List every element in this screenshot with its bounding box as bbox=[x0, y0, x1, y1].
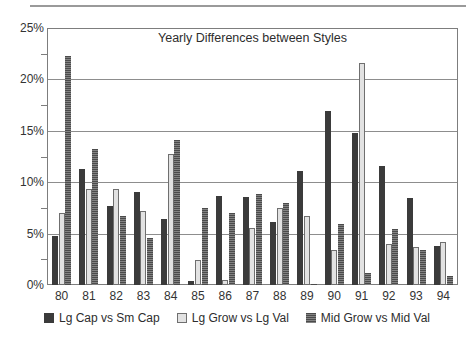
bar bbox=[168, 154, 174, 285]
chart-legend: Lg Cap vs Sm CapLg Grow vs Lg ValMid Gro… bbox=[0, 311, 474, 325]
page-rule-divider bbox=[30, 5, 466, 7]
x-tick-label: 86 bbox=[210, 289, 240, 303]
legend-label: Lg Cap vs Sm Cap bbox=[59, 311, 160, 325]
legend-item[interactable]: Lg Grow vs Lg Val bbox=[177, 311, 289, 325]
legend-item[interactable]: Lg Cap vs Sm Cap bbox=[44, 311, 160, 325]
y-tick-label: 0% bbox=[2, 279, 44, 291]
y-minor-tick bbox=[41, 54, 47, 55]
bar bbox=[407, 198, 413, 285]
bar-group bbox=[352, 29, 371, 285]
y-tick-label: 20% bbox=[2, 73, 44, 85]
bar-group bbox=[297, 29, 316, 285]
bar bbox=[174, 140, 180, 285]
bar bbox=[379, 166, 385, 285]
x-tick-label: 81 bbox=[74, 289, 104, 303]
bar bbox=[161, 219, 167, 285]
bar bbox=[107, 206, 113, 285]
x-tick-label: 88 bbox=[265, 289, 295, 303]
bar bbox=[216, 196, 222, 285]
x-tick-label: 85 bbox=[183, 289, 213, 303]
x-tick-label: 92 bbox=[374, 289, 404, 303]
bar bbox=[140, 211, 146, 285]
bar bbox=[256, 194, 262, 285]
bar bbox=[195, 260, 201, 285]
x-tick-label: 91 bbox=[347, 289, 377, 303]
bar bbox=[420, 250, 426, 285]
bar bbox=[134, 192, 140, 285]
bar bbox=[202, 208, 208, 285]
bar bbox=[304, 216, 310, 285]
bar-group bbox=[243, 29, 262, 285]
legend-swatch-icon bbox=[177, 313, 187, 323]
bar bbox=[65, 56, 71, 285]
bar-group bbox=[134, 29, 153, 285]
x-tick-label: 84 bbox=[156, 289, 186, 303]
y-tick-label: 25% bbox=[2, 22, 44, 34]
bar-group bbox=[161, 29, 180, 285]
bar bbox=[147, 238, 153, 285]
bar bbox=[270, 222, 276, 285]
x-tick-label: 90 bbox=[319, 289, 349, 303]
bar-group bbox=[270, 29, 289, 285]
y-tick-label: 15% bbox=[2, 125, 44, 137]
x-tick-label: 93 bbox=[401, 289, 431, 303]
legend-label: Lg Grow vs Lg Val bbox=[192, 311, 289, 325]
bar-group bbox=[188, 29, 207, 285]
bar bbox=[352, 133, 358, 285]
bar bbox=[440, 242, 446, 285]
bar bbox=[392, 229, 398, 285]
bar bbox=[331, 250, 337, 285]
legend-swatch-icon bbox=[44, 313, 54, 323]
x-tick-label: 80 bbox=[47, 289, 77, 303]
bars-layer bbox=[48, 29, 457, 285]
bar bbox=[79, 169, 85, 285]
bar bbox=[338, 224, 344, 285]
bar bbox=[92, 149, 98, 285]
bar bbox=[434, 246, 440, 285]
bar bbox=[447, 276, 453, 285]
legend-item[interactable]: Mid Grow vs Mid Val bbox=[306, 311, 430, 325]
chart-figure: 0%5%10%15%20%25% Yearly Differences betw… bbox=[0, 0, 474, 339]
y-tick-label: 10% bbox=[2, 176, 44, 188]
bar bbox=[249, 228, 255, 285]
x-tick-label: 89 bbox=[292, 289, 322, 303]
bar bbox=[243, 197, 249, 285]
bar-group bbox=[107, 29, 126, 285]
y-minor-tick bbox=[41, 157, 47, 158]
bar bbox=[386, 244, 392, 285]
bar-group bbox=[216, 29, 235, 285]
bar bbox=[229, 213, 235, 285]
bar bbox=[297, 171, 303, 285]
bar-group bbox=[434, 29, 453, 285]
legend-swatch-icon bbox=[306, 313, 316, 323]
bar-group bbox=[325, 29, 344, 285]
bar bbox=[188, 281, 194, 285]
bar bbox=[283, 203, 289, 285]
y-minor-tick bbox=[41, 208, 47, 209]
bar bbox=[325, 111, 331, 285]
bar bbox=[311, 284, 317, 285]
x-axis: 808182838485868788899091929394 bbox=[48, 289, 457, 305]
bar-group bbox=[379, 29, 398, 285]
y-minor-tick bbox=[41, 259, 47, 260]
bar bbox=[277, 208, 283, 285]
bar bbox=[86, 189, 92, 285]
y-axis: 0%5%10%15%20%25% bbox=[0, 0, 44, 339]
bar-group bbox=[407, 29, 426, 285]
bar bbox=[413, 247, 419, 285]
bar-group bbox=[79, 29, 98, 285]
x-tick-label: 82 bbox=[101, 289, 131, 303]
bar bbox=[120, 216, 126, 285]
bar bbox=[365, 273, 371, 285]
y-minor-tick bbox=[41, 105, 47, 106]
legend-label: Mid Grow vs Mid Val bbox=[321, 311, 430, 325]
bar-group bbox=[52, 29, 71, 285]
x-tick-label: 83 bbox=[128, 289, 158, 303]
y-tick-label: 5% bbox=[2, 228, 44, 240]
bar bbox=[113, 189, 119, 285]
bar bbox=[359, 63, 365, 285]
bar bbox=[222, 280, 228, 285]
bar bbox=[52, 236, 58, 285]
x-tick-label: 94 bbox=[428, 289, 458, 303]
x-tick-label: 87 bbox=[238, 289, 268, 303]
